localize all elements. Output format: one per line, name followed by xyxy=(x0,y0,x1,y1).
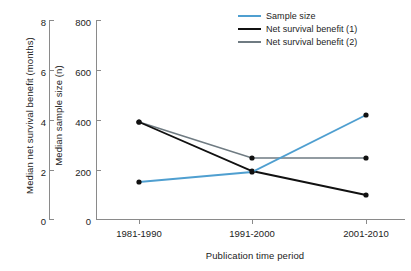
plot-area xyxy=(0,0,411,271)
chart-figure: Median net survival benefit (months) Med… xyxy=(0,0,411,271)
y-axis-right-spine xyxy=(97,20,102,220)
x-axis-spine xyxy=(97,220,406,225)
y-axis-left-spine xyxy=(50,20,55,220)
series-sample-size xyxy=(136,112,368,184)
series-net-survival-benefit-2 xyxy=(136,119,368,160)
